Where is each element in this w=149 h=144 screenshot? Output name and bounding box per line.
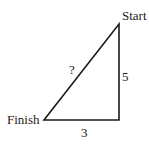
hypotenuse-label: ? xyxy=(69,62,75,77)
vertical-side-label: 5 xyxy=(122,69,129,84)
start-label: Start xyxy=(122,8,147,23)
finish-label: Finish xyxy=(7,112,40,127)
right-triangle xyxy=(44,24,119,120)
horizontal-side-label: 3 xyxy=(81,125,88,140)
triangle-diagram: Start Finish 5 3 ? xyxy=(0,0,149,144)
